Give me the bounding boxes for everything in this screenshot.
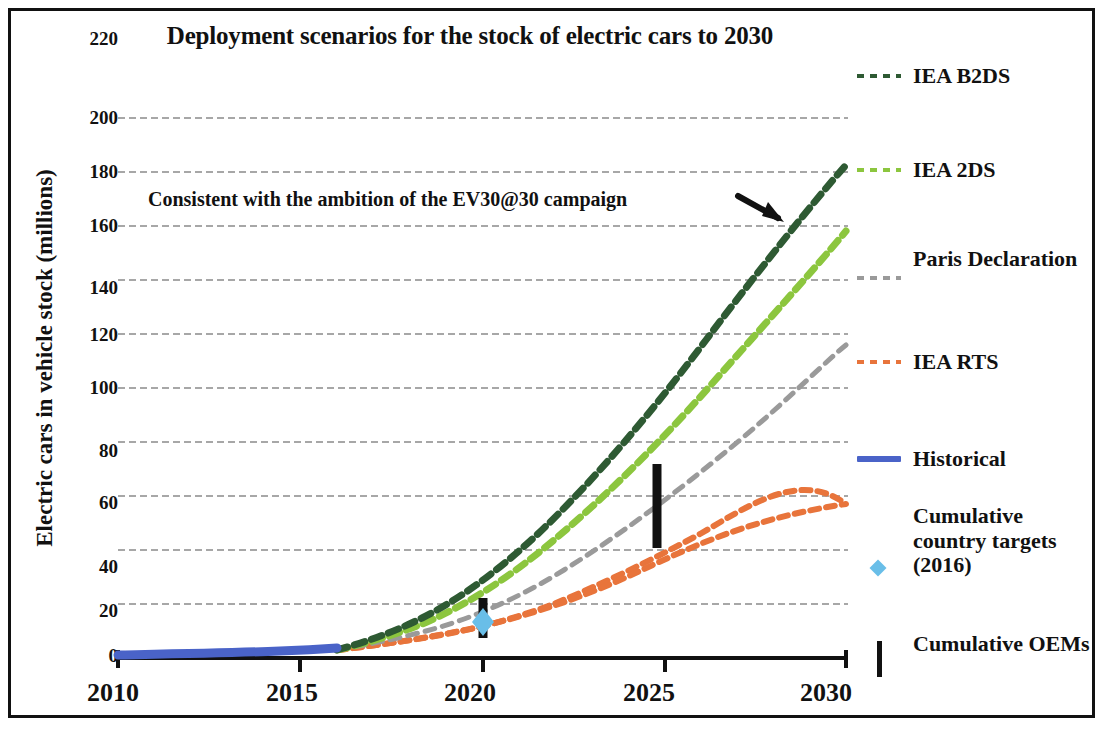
- dashed-line-key-icon: [855, 351, 903, 373]
- legend-item-iea-b2ds[interactable]: IEA B2DS: [855, 64, 1095, 89]
- legend-item-cumulative-oems[interactable]: Cumulative OEMs: [855, 632, 1095, 657]
- legend-item-paris-declaration[interactable]: Paris Declaration: [855, 247, 1095, 272]
- chart-legend: IEA B2DS IEA 2DS Paris Declaration IEA R…: [855, 52, 1095, 692]
- legend-item-iea-rts[interactable]: IEA RTS: [855, 350, 1095, 375]
- legend-label-cumulative-country-targets: Cumulative country targets (2016): [913, 504, 1093, 578]
- legend-label-paris-declaration: Paris Declaration: [913, 247, 1088, 272]
- dashed-line-key-icon: [855, 65, 903, 87]
- legend-label-iea-rts: IEA RTS: [913, 350, 998, 375]
- legend-item-iea-2ds[interactable]: IEA 2DS: [855, 158, 1095, 183]
- solid-line-key-icon: [855, 448, 903, 470]
- dashed-line-key-icon: [855, 248, 903, 270]
- series-line-historical: [118, 648, 337, 655]
- series-line-iea-b2ds: [337, 165, 846, 650]
- annotation-arrow: [738, 196, 784, 222]
- vertical-bar-key-icon: [855, 633, 903, 655]
- legend-item-historical[interactable]: Historical: [855, 447, 1095, 472]
- legend-label-historical: Historical: [913, 447, 1006, 472]
- diamond-marker-key-icon: [855, 530, 903, 552]
- annotation-text: Consistent with the ambition of the EV30…: [148, 188, 627, 211]
- legend-label-iea-b2ds: IEA B2DS: [913, 64, 1010, 89]
- legend-label-cumulative-oems: Cumulative OEMs: [913, 632, 1093, 657]
- legend-label-iea-2ds: IEA 2DS: [913, 158, 996, 183]
- chart-figure: Deployment scenarios for the stock of el…: [0, 0, 1103, 733]
- legend-item-cumulative-country-targets[interactable]: Cumulative country targets (2016): [855, 504, 1095, 578]
- dashed-line-key-icon: [855, 159, 903, 181]
